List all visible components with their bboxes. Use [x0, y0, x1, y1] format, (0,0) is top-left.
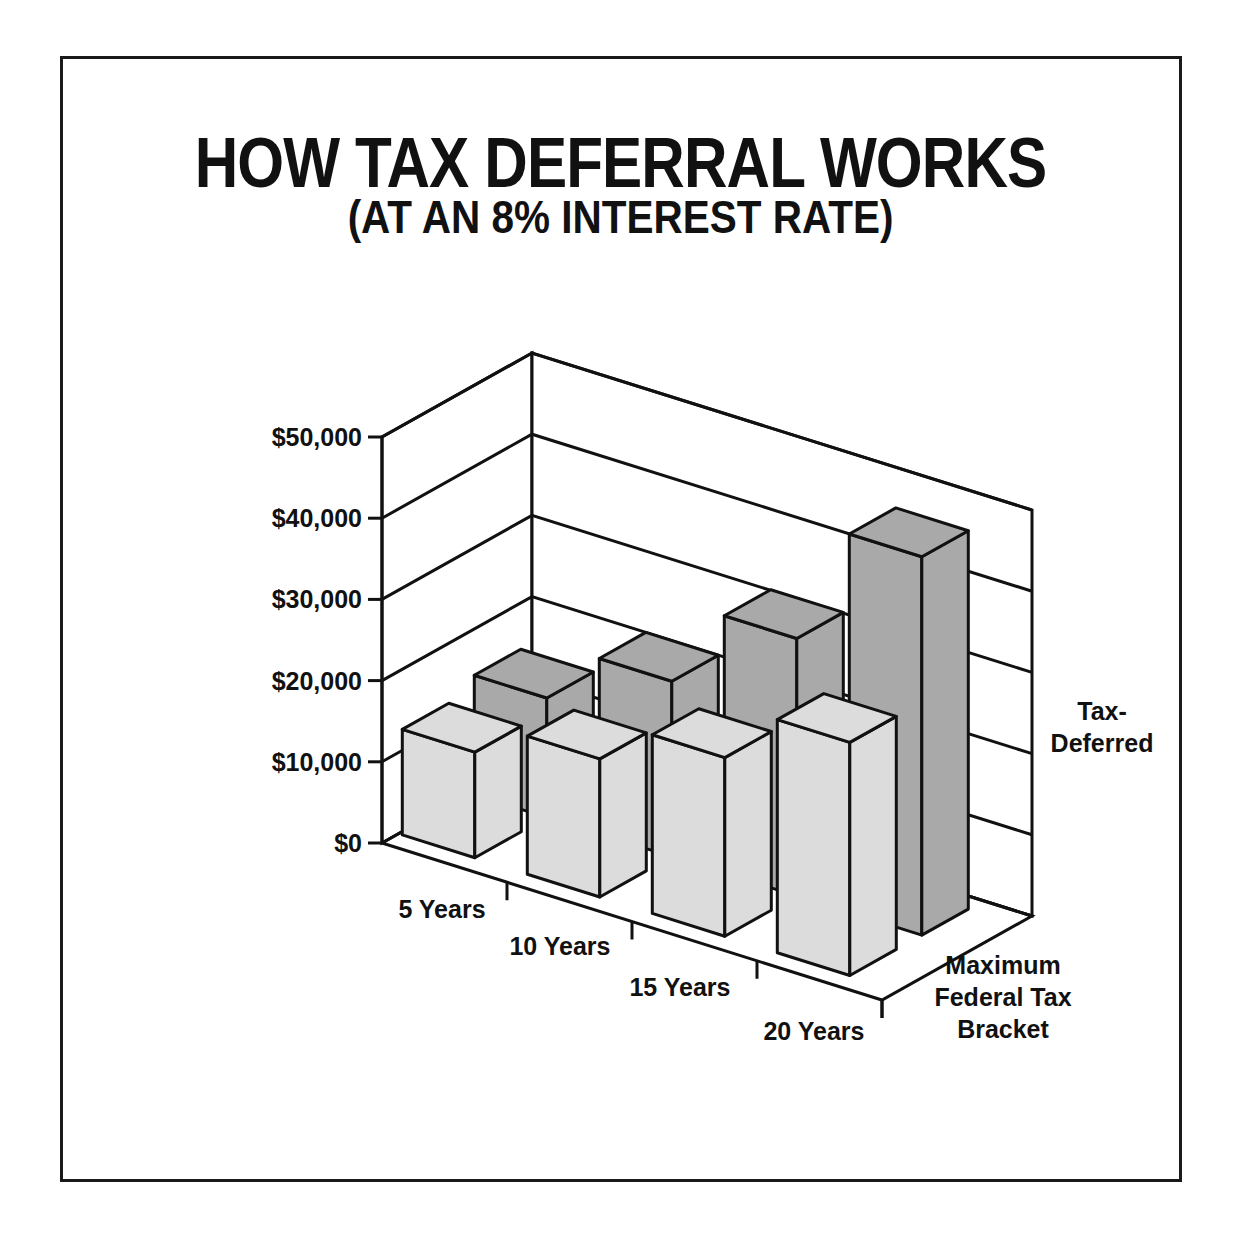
- series-label-max-federal: Federal Tax: [934, 983, 1071, 1011]
- bar-front-face: [652, 735, 725, 936]
- series-label-tax-deferred: Deferred: [1051, 729, 1154, 757]
- bar-side-face: [850, 716, 897, 975]
- bar-side-face: [725, 732, 772, 937]
- chart-3d-bars: $0$10,000$20,000$30,000$40,000$50,0005 Y…: [0, 0, 1241, 1240]
- y-tick-label: $0: [334, 829, 362, 857]
- bar-side-face: [922, 531, 969, 935]
- bar-side-face: [600, 733, 647, 897]
- y-tick-label: $30,000: [272, 585, 362, 613]
- x-category-label: 10 Years: [509, 932, 610, 960]
- bar-front-face: [777, 720, 850, 976]
- bar-max-federal-tax: [527, 710, 646, 897]
- series-label-max-federal: Bracket: [957, 1015, 1049, 1043]
- y-tick-label: $50,000: [272, 423, 362, 451]
- bar-max-federal-tax: [777, 694, 896, 976]
- series-label-max-federal: Maximum: [945, 951, 1060, 979]
- series-label-tax-deferred: Tax-: [1077, 697, 1127, 725]
- y-tick-label: $40,000: [272, 504, 362, 532]
- x-category-label: 15 Years: [629, 973, 730, 1001]
- bar-front-face: [527, 736, 600, 897]
- y-tick-label: $10,000: [272, 748, 362, 776]
- x-category-label: 5 Years: [398, 895, 485, 923]
- bar-max-federal-tax: [652, 709, 771, 936]
- x-category-label: 20 Years: [763, 1017, 864, 1045]
- bar-max-federal-tax: [402, 703, 521, 857]
- y-tick-label: $20,000: [272, 667, 362, 695]
